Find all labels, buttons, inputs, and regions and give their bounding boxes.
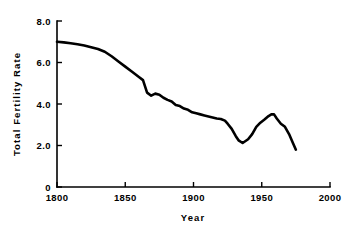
fertility-rate-line-chart: 02.04.06.08.0 18001850190019502000 Year … [0,0,360,233]
y-tick-label: 4.0 [37,99,51,110]
fertility-rate-series-line [57,42,296,150]
chart-container: 02.04.06.08.0 18001850190019502000 Year … [0,0,360,233]
y-tick-label: 6.0 [37,57,51,68]
y-tick-label: 2.0 [37,140,51,151]
x-tick-label: 1950 [250,192,273,203]
x-axis-tick-labels: 18001850190019502000 [46,192,342,203]
x-tick-label: 2000 [319,192,342,203]
y-tick-label: 8.0 [37,16,51,27]
x-tick-label: 1900 [182,192,205,203]
axes-group [57,21,330,187]
y-tick-label: 0 [45,182,51,193]
x-tick-label: 1800 [46,192,69,203]
x-tick-label: 1850 [114,192,137,203]
y-axis-tick-labels: 02.04.06.08.0 [37,16,51,193]
y-axis-title: Total Fertility Rate [11,52,22,156]
x-axis-title: Year [181,212,205,223]
